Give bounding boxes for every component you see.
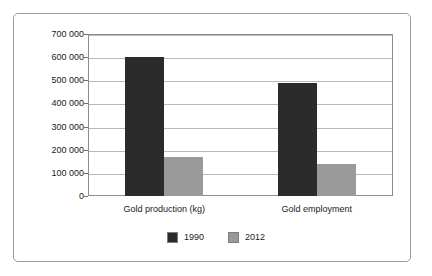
x-axis-category-label: Gold production (kg)	[88, 204, 241, 214]
bar-2012-gold-employment	[317, 164, 356, 196]
x-axis-category-label: Gold employment	[241, 204, 394, 214]
legend-entry-1990: 1990	[167, 232, 204, 243]
legend-label-1990: 1990	[184, 232, 204, 243]
legend-swatch-1990	[167, 232, 178, 243]
bar-chart: 0100 000200 000300 000400 000500 000600 …	[0, 0, 432, 276]
y-axis-tick-mark	[84, 196, 88, 197]
y-axis-tick-label: 700 000	[12, 29, 84, 39]
bars-layer	[88, 34, 393, 196]
legend-entry-2012: 2012	[228, 232, 265, 243]
bar-1990-gold-employment	[278, 83, 317, 196]
legend-swatch-2012	[228, 232, 239, 243]
legend-label-2012: 2012	[245, 232, 265, 243]
y-axis-tick-label: 100 000	[12, 168, 84, 178]
figure: 0100 000200 000300 000400 000500 000600 …	[0, 0, 432, 276]
y-axis-tick-label: 300 000	[12, 122, 84, 132]
bar-1990-gold-production-kg-	[125, 57, 164, 196]
y-axis-tick-label: 200 000	[12, 145, 84, 155]
y-axis-tick-label: 600 000	[12, 52, 84, 62]
y-axis-tick-label: 0	[12, 191, 84, 201]
chart-legend: 19902012	[0, 232, 432, 243]
y-axis-tick-label: 400 000	[12, 98, 84, 108]
y-axis-tick-label: 500 000	[12, 75, 84, 85]
bar-2012-gold-production-kg-	[164, 157, 203, 196]
